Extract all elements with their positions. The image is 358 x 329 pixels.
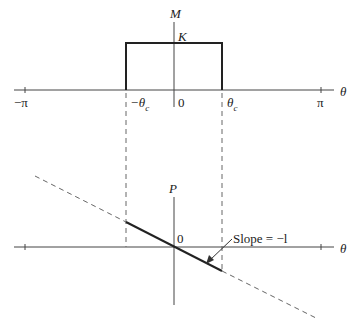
top-theta-label: θ <box>340 85 346 98</box>
theta-c-label: θc <box>227 96 237 113</box>
origin-label: 0 <box>177 232 184 245</box>
neg-pi-label: −π <box>14 96 28 109</box>
slope-arrow <box>209 239 232 261</box>
diagram-canvas <box>0 0 358 329</box>
neg-theta-c-label: −θc <box>130 96 149 113</box>
zero-label: 0 <box>178 96 185 109</box>
phase-extension-left <box>35 176 126 222</box>
phase-extension-right <box>222 271 318 319</box>
filter-response-diagram: M K θ −π −θc 0 θc π P 0 θ Slope = −l <box>0 0 358 329</box>
k-label: K <box>178 30 187 43</box>
m-axis-label: M <box>170 7 181 20</box>
bottom-theta-label: θ <box>340 242 346 255</box>
arrow-head-icon <box>206 255 214 264</box>
pi-label: π <box>317 96 324 109</box>
slope-annotation: Slope = −l <box>233 232 287 245</box>
p-axis-label: P <box>169 182 177 195</box>
